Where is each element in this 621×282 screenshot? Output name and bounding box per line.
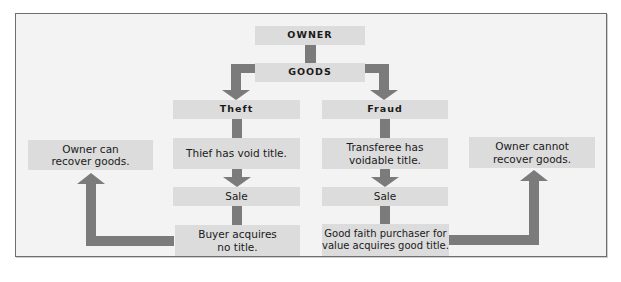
- transferee-voidable-title-box: Transferee has voidable title.: [322, 138, 448, 169]
- arrow-goods-to-fraud: [365, 64, 398, 100]
- arrow-thief-to-sale: [223, 169, 251, 187]
- left-sale-box: Sale: [173, 187, 300, 206]
- arrow-purchaser-to-owner-cannot-recover: [449, 170, 548, 245]
- connector-sale-buyer: [232, 206, 242, 225]
- good-faith-purchaser-box: Good faith purchaser for value acquires …: [322, 224, 449, 256]
- arrow-goods-to-theft: [222, 64, 255, 100]
- owner-can-recover-box: Owner can recover goods.: [28, 140, 153, 170]
- right-sale-box: Sale: [322, 187, 448, 206]
- theft-box: Theft: [173, 100, 300, 119]
- thief-void-title-box: Thief has void title.: [173, 138, 300, 169]
- buyer-no-title-box: Buyer acquires no title.: [175, 225, 300, 256]
- arrow-transferee-to-sale: [371, 169, 399, 187]
- goods-box: GOODS: [255, 63, 365, 82]
- owner-box: OWNER: [255, 26, 365, 45]
- owner-cannot-recover-box: Owner cannot recover goods.: [469, 137, 595, 168]
- fraud-box: Fraud: [322, 100, 448, 119]
- connector-theft-thief: [232, 119, 242, 138]
- arrow-buyer-to-owner-can-recover: [77, 173, 174, 246]
- connector-fraud-transferee: [380, 119, 390, 138]
- connector-sale-purchaser: [380, 206, 390, 225]
- connector-owner-goods: [305, 45, 316, 63]
